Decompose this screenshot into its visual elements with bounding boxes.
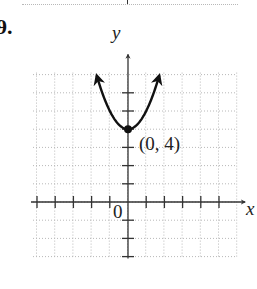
vertex-point-label: (0, 4)	[139, 133, 180, 155]
vertex-point	[124, 125, 132, 133]
y-axis-label: y	[112, 22, 120, 44]
x-axis-label: x	[246, 198, 254, 220]
origin-label: 0	[113, 201, 123, 223]
graph-canvas	[0, 0, 257, 289]
